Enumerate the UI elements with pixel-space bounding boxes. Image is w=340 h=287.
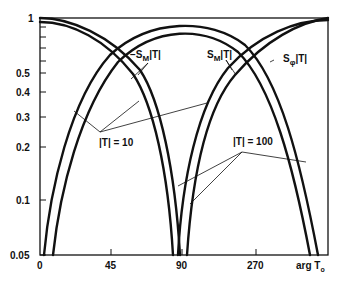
chart: 1 0.5 0.4 0.3 0.2 0.1 0.05 0 45 90 270 a… bbox=[0, 0, 340, 287]
label-sphi: Sφ|T| bbox=[283, 53, 307, 67]
y-tick-0.3: 0.3 bbox=[16, 112, 30, 123]
x-tick-270: 270 bbox=[247, 260, 264, 271]
x-ticks bbox=[111, 249, 256, 255]
label-neg-sm: −SM|T| bbox=[130, 49, 161, 63]
label-sm: SM|T| bbox=[207, 49, 232, 63]
y-ticks bbox=[40, 18, 46, 255]
x-axis-label: arg To bbox=[296, 260, 325, 273]
y-tick-0.1: 0.1 bbox=[16, 195, 30, 206]
x-tick-0: 0 bbox=[37, 260, 43, 271]
y-tick-0.05: 0.05 bbox=[10, 250, 30, 261]
x-tick-90: 90 bbox=[176, 260, 188, 271]
y-tick-0.2: 0.2 bbox=[16, 142, 30, 153]
label-t100: |T| = 100 bbox=[233, 136, 273, 147]
y-tick-1: 1 bbox=[28, 13, 34, 24]
y-tick-0.4: 0.4 bbox=[16, 87, 30, 98]
label-t10: |T| = 10 bbox=[99, 137, 134, 148]
x-tick-45: 45 bbox=[105, 260, 117, 271]
y-tick-0.5: 0.5 bbox=[16, 68, 30, 79]
leader-lines bbox=[74, 60, 306, 204]
